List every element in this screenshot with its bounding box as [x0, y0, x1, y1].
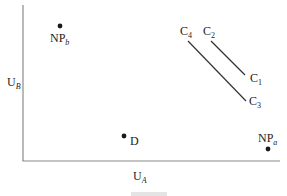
y-axis-label: UB	[7, 75, 21, 91]
curve-c2-label: C2	[203, 24, 215, 40]
x-axis-label: UA	[133, 169, 147, 185]
cropped-caption-remnant	[131, 192, 167, 196]
curve-c4-c3	[188, 41, 246, 101]
point-npb-label: NPb	[50, 31, 69, 47]
utility-diagram: UB UA NPb D NPa C2 C1 C4 C3	[0, 0, 287, 196]
point-npb	[58, 24, 63, 29]
curve-c1-label: C1	[250, 71, 262, 87]
curve-c4-label: C4	[180, 24, 192, 40]
point-d	[122, 134, 127, 139]
point-npa	[266, 147, 271, 152]
point-npa-label: NPa	[258, 131, 277, 147]
curve-c3-label: C3	[249, 94, 261, 110]
point-d-label: D	[130, 134, 139, 148]
